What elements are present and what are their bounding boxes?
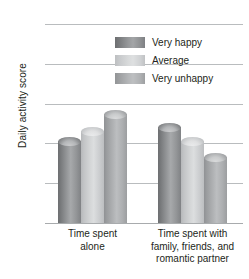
bar-1-0 xyxy=(158,123,181,223)
y-axis-title: Daily activity score xyxy=(17,41,28,171)
x-category-label-1: Time spent withfamily, friends, androman… xyxy=(133,228,249,266)
legend-swatch-very-happy xyxy=(115,37,145,48)
bar-body xyxy=(58,141,81,223)
legend-label-very-unhappy: Very unhappy xyxy=(152,74,213,84)
legend-label-very-happy: Very happy xyxy=(152,38,202,48)
gridline-0 xyxy=(45,223,243,224)
legend-item-very-happy: Very happy xyxy=(115,34,213,51)
x-category-line: family, friends, and xyxy=(133,241,249,254)
gridline-6 xyxy=(45,104,243,105)
gridline-10 xyxy=(45,24,243,25)
bar-0-1 xyxy=(81,127,104,223)
chart-legend: Very happy Average Very unhappy xyxy=(115,34,213,88)
x-category-line: Time spent with xyxy=(133,228,249,241)
legend-item-average: Average xyxy=(115,52,213,69)
bar-0-2 xyxy=(104,110,127,223)
grouped-bar-chart: Daily activity score 0246810 Very happy … xyxy=(0,0,248,279)
bar-body xyxy=(104,114,127,223)
bar-0-0 xyxy=(58,137,81,223)
bar-body xyxy=(158,127,181,223)
bar-1-2 xyxy=(204,153,227,223)
legend-item-very-unhappy: Very unhappy xyxy=(115,70,213,87)
x-axis-category-labels: Time spentaloneTime spent withfamily, fr… xyxy=(45,228,243,276)
bar-cap-icon xyxy=(104,110,127,119)
x-category-line: romantic partner xyxy=(133,253,249,266)
legend-swatch-average xyxy=(115,55,145,66)
legend-swatch-very-unhappy xyxy=(115,73,145,84)
bar-cap-icon xyxy=(158,123,181,132)
bar-1-1 xyxy=(181,137,204,223)
bar-body xyxy=(181,141,204,223)
bar-body xyxy=(204,157,227,223)
bar-body xyxy=(81,131,104,223)
legend-label-average: Average xyxy=(152,56,189,66)
